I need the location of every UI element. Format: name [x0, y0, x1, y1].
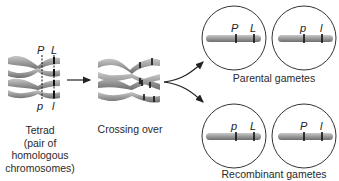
- tetrad-gene-P: P: [37, 44, 45, 56]
- gene-label: p: [299, 22, 306, 34]
- tetrad-gene-L: L: [51, 44, 57, 56]
- arrow-to-parental: [164, 62, 203, 82]
- gamete-recombinant-2: P l: [272, 104, 336, 168]
- gene-label: P: [231, 22, 239, 34]
- tetrad-gene-p: p: [36, 100, 43, 112]
- gamete-parental-1: P L: [202, 6, 266, 70]
- crossing-over-chromosomes: [98, 58, 160, 103]
- tetrad-chromosomes: [8, 55, 60, 99]
- label-line: chromosomes): [0, 162, 80, 175]
- tetrad-gene-l: l: [52, 100, 55, 112]
- gamete-parental-2: p l: [272, 6, 336, 70]
- gene-label: L: [250, 22, 256, 34]
- crossing-over-label: Crossing over: [95, 123, 165, 136]
- gamete-recombinant-1: p L: [202, 104, 266, 168]
- arrow-to-recombinant: [164, 82, 203, 102]
- label-line: homologous: [0, 149, 80, 162]
- tetrad-label: Tetrad (pair of homologous chromosomes): [0, 124, 80, 174]
- parental-gametes-label: Parental gametes: [219, 72, 329, 85]
- gene-label: L: [250, 120, 256, 132]
- label-line: (pair of: [0, 137, 80, 150]
- gene-label: p: [230, 120, 237, 132]
- recombinant-gametes-label: Recombinant gametes: [214, 168, 334, 181]
- label-line: Tetrad: [0, 124, 80, 137]
- gene-label: P: [300, 120, 308, 132]
